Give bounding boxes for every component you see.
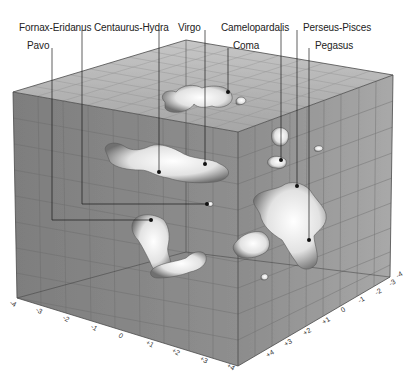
label-pavo: Pavo [27,40,49,51]
cube-left-face [13,92,238,366]
blob-small-bottom [261,274,268,280]
cube-svg [0,0,406,372]
label-virgo: Virgo [178,22,201,33]
blob-camelopardalis-2 [267,156,286,168]
supercluster-cube-diagram: Fornax-Eridanus Pavo Centaurus-Hydra Vir… [0,0,406,372]
label-coma: Coma [233,40,259,51]
label-camelopardalis: Camelopardalis [221,22,289,33]
label-centaurus-hydra: Centaurus-Hydra [94,22,169,33]
blob-small-right [314,146,323,152]
label-fornax-eridanus: Fornax-Eridanus [19,22,91,33]
blob-camelopardalis [271,128,288,147]
label-perseus-pisces: Perseus-Pisces [303,22,371,33]
label-pegasus: Pegasus [315,40,353,51]
